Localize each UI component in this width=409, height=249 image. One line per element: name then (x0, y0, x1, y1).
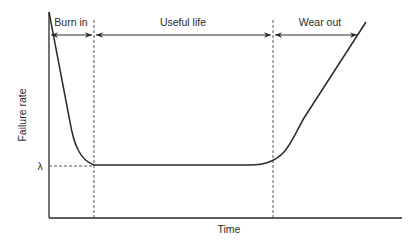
lambda-label: λ (37, 160, 43, 172)
phase-label-burn-in: Burn in (54, 16, 87, 28)
phase-label-useful-life: Useful life (160, 16, 206, 28)
x-axis-label: Time (218, 223, 241, 235)
phase-label-wear-out: Wear out (299, 16, 341, 28)
y-axis-label: Failure rate (16, 88, 28, 141)
bathtub-curve-diagram: Burn in Useful life Wear out Time Failur… (0, 0, 409, 249)
